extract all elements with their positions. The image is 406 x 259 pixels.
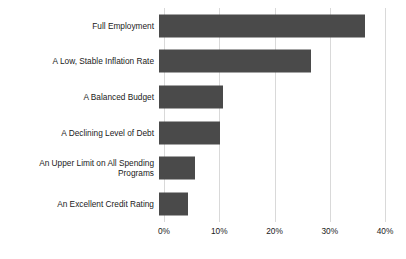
x-tick-label: 0% [158,226,170,236]
x-tick-label: 30% [321,226,338,236]
bar-row: An Upper Limit on All Spending Programs [0,151,406,187]
bar-track [159,44,406,80]
bar-rows: Full EmploymentA Low, Stable Inflation R… [0,8,406,222]
category-label: A Low, Stable Inflation Rate [0,56,159,67]
category-label: Full Employment [0,21,159,32]
bar [159,193,188,216]
bar-track [159,8,406,44]
bar [159,86,223,109]
bar-track [159,79,406,115]
bar [159,14,365,37]
category-label: An Excellent Credit Rating [0,199,159,210]
bar-track [159,186,406,222]
bar-row: An Excellent Credit Rating [0,186,406,222]
bar-row: A Declining Level of Debt [0,115,406,151]
x-tick-label: 10% [211,226,228,236]
bar-row: A Balanced Budget [0,79,406,115]
bar [159,157,195,180]
bar-track [159,151,406,187]
bar-row: Full Employment [0,8,406,44]
bar-chart: Full EmploymentA Low, Stable Inflation R… [0,0,406,259]
x-tick-label: 40% [377,226,394,236]
category-label: An Upper Limit on All Spending Programs [0,158,159,179]
bar-row: A Low, Stable Inflation Rate [0,44,406,80]
bar-track [159,115,406,151]
x-tick-label: 20% [266,226,283,236]
x-axis-tick-labels: 0%10%20%30%40% [164,226,385,240]
category-label: A Balanced Budget [0,92,159,103]
bar [159,121,220,144]
category-label: A Declining Level of Debt [0,128,159,139]
bar [159,50,311,73]
